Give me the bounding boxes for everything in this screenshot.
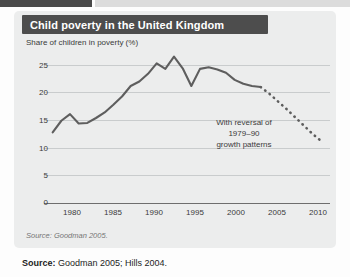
chart-annotation: With reversal of 1979–90 growth patterns: [193, 117, 295, 150]
page-top-dark-bar: [0, 0, 92, 7]
figure-title: Child poverty in the United Kingdom: [22, 19, 224, 31]
annotation-line-2: 1979–90: [193, 128, 295, 139]
y-tick-25: 25: [28, 61, 48, 70]
x-tick-1985: 1985: [98, 208, 128, 217]
annotation-line-3: growth patterns: [193, 139, 295, 150]
gridline-5: [44, 175, 330, 176]
y-tick-20: 20: [28, 88, 48, 97]
page-root: Child poverty in the United Kingdom Shar…: [0, 0, 350, 277]
page-top-light-bar: [95, 0, 350, 7]
figure-title-band: Child poverty in the United Kingdom: [22, 15, 268, 34]
page-source-note: Source: Goodman 2005; Hills 2004.: [22, 258, 167, 268]
x-tick-2005: 2005: [262, 208, 292, 217]
x-tick-2010: 2010: [303, 208, 333, 217]
x-tick-1990: 1990: [139, 208, 169, 217]
x-tick-1995: 1995: [180, 208, 210, 217]
y-tick-5: 5: [28, 171, 48, 180]
figure-source-note: Source: Goodman 2005.: [26, 231, 108, 240]
gridline-20: [44, 92, 330, 93]
x-tick-1980: 1980: [57, 208, 87, 217]
x-axis-line: [44, 203, 330, 204]
x-tick-2000: 2000: [221, 208, 251, 217]
annotation-line-1: With reversal of: [193, 117, 295, 128]
figure-subtitle: Share of children in poverty (%): [26, 38, 138, 47]
y-tick-10: 10: [28, 144, 48, 153]
y-tick-15: 15: [28, 116, 48, 125]
page-source-text: Goodman 2005; Hills 2004.: [56, 258, 168, 268]
y-tick-0: 0: [28, 198, 48, 207]
page-source-label: Source:: [22, 258, 56, 268]
gridline-25: [44, 65, 330, 66]
